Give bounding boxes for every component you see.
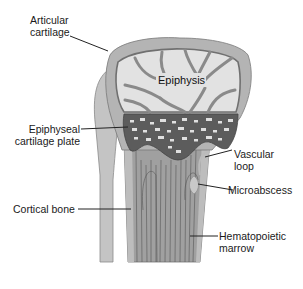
- label-epiphyseal-plate: Epiphyseal cartilage plate: [8, 123, 80, 147]
- label-articular-cartilage: Articular cartilage: [30, 14, 70, 38]
- label-microabscess: Microabscess: [228, 184, 292, 196]
- label-epiphysis: Epiphysis: [158, 74, 205, 86]
- label-cortical-bone: Cortical bone: [13, 203, 75, 215]
- bone-diagram: Articular cartilage Epiphysis Epiphyseal…: [0, 0, 303, 289]
- label-vascular-loop: Vascular loop: [234, 148, 274, 172]
- label-hematopoietic-marrow: Hematopoietic marrow: [219, 230, 286, 254]
